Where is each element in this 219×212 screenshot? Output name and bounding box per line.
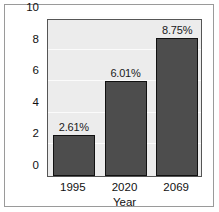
bar-value-label: 2.61% — [44, 121, 104, 133]
gridline — [48, 17, 201, 18]
y-axis-tick-label: 2 — [33, 127, 39, 139]
x-axis-title: Year — [47, 195, 202, 209]
bar-chart-figure: 0246810 2.61%6.01%8.75% 199520202069 Yea… — [0, 0, 219, 212]
y-axis-tick-label: 10 — [26, 1, 39, 13]
bar — [156, 38, 198, 176]
x-axis-tick-label: 2069 — [146, 180, 206, 194]
y-axis-tick-label: 8 — [33, 33, 39, 45]
plot-area: 2.61%6.01%8.75% — [47, 19, 202, 177]
y-axis-tick-label: 4 — [33, 96, 39, 108]
bar — [105, 81, 147, 176]
y-axis: 0246810 — [9, 19, 43, 177]
bar-value-label: 8.75% — [147, 24, 207, 36]
y-axis-tick-label: 0 — [33, 159, 39, 171]
figure-frame: 0246810 2.61%6.01%8.75% 199520202069 Yea… — [4, 4, 214, 207]
bar-series: 2.61%6.01%8.75% — [48, 20, 201, 176]
x-axis: 199520202069 — [47, 180, 202, 196]
bar-value-label: 6.01% — [96, 67, 156, 79]
y-axis-tick-label: 6 — [33, 64, 39, 76]
bar — [53, 135, 95, 176]
